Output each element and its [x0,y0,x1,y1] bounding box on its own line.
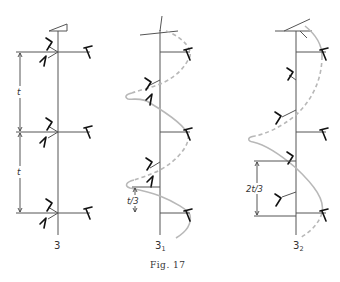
panel-label: 31 [155,240,166,253]
helix-path [132,31,190,93]
helix-path [126,93,188,135]
leaf-icon [40,218,46,228]
dimension-label-t: t [17,167,21,177]
helix-path [255,56,322,136]
helix-path [134,135,188,180]
branch-line [282,110,296,117]
apex-triangle [49,24,67,31]
leaf-icon [275,112,281,124]
leaf-icon [287,68,293,80]
branch-line [282,192,296,197]
apex-line [300,31,307,38]
panel-label: 3 [54,240,60,251]
apex-line [284,19,310,31]
panel-label: 32 [293,240,304,253]
leaf-icon [275,194,281,206]
leaf-icon [320,128,328,140]
leaf-icon [40,56,46,66]
dimension-label-t: t [17,87,21,97]
leaf-icon [40,137,46,147]
dimension-label-two-t-third: 2t/3 [246,184,263,194]
panel-3-2: 2t/3 32 [245,19,328,253]
helix-path [249,136,323,213]
dimension-label-t-third: t/3 [127,196,139,206]
panel-3: t t 3 [15,24,92,251]
leaf-icon [147,176,153,187]
figure-caption: Fig. 17 [150,260,186,270]
helix-path [300,213,322,238]
leaf-icon [146,94,152,105]
panel-3-1: t/3 31 [126,16,192,253]
figure-17: t t 3 t/3 31 [0,0,340,282]
apex-line [160,16,162,31]
leaf-icon [146,158,152,170]
